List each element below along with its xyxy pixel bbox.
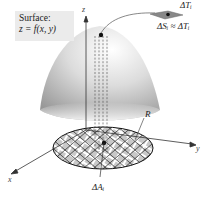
surface-area-diagram: Surface: z = f(x, y) z x y R ΔTᵢ ΔSᵢ ≈ Δ… (0, 0, 205, 200)
surface-label-title: Surface: (19, 13, 71, 24)
region-r (20, 120, 190, 180)
surface-point (99, 33, 103, 37)
surface-label: Surface: z = f(x, y) (15, 11, 74, 41)
region-label: R (145, 110, 151, 119)
delta-t-label: ΔTᵢ (180, 1, 192, 10)
delta-s-label: ΔSᵢ ≈ ΔTᵢ (157, 22, 189, 31)
z-axis-label: z (82, 6, 85, 14)
x-axis-label: x (8, 176, 12, 184)
y-axis-label: y (196, 145, 200, 153)
delta-a-label: ΔAᵢ (92, 183, 104, 192)
surface-equation: z = f(x, y) (19, 24, 71, 35)
tangent-plane-patch (150, 11, 183, 19)
